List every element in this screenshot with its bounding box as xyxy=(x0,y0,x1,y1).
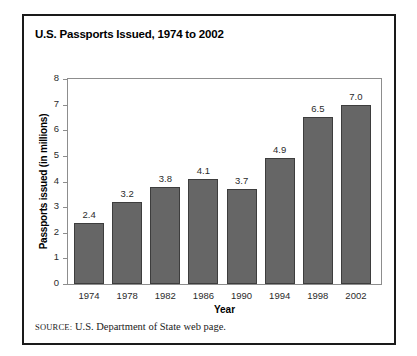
bar-rect xyxy=(227,189,257,284)
source-note: Source: U.S. Department of State web pag… xyxy=(35,321,226,332)
x-axis-tick-label: 1986 xyxy=(183,290,223,301)
x-axis-tick-label: 1974 xyxy=(69,290,109,301)
y-axis-tick-label: 8 xyxy=(54,72,59,83)
bar-rect xyxy=(341,105,371,284)
bar-value-label: 3.8 xyxy=(150,173,180,184)
bar-rect xyxy=(74,223,104,285)
y-axis-tick-label: 7 xyxy=(54,98,59,109)
x-axis-tick-label: 1990 xyxy=(222,290,262,301)
bar[interactable]: 4.91994 xyxy=(265,79,295,284)
bar[interactable]: 3.21978 xyxy=(112,79,142,284)
bar-rect xyxy=(303,117,333,284)
bar[interactable]: 3.81982 xyxy=(150,79,180,284)
bar-value-label: 4.9 xyxy=(265,144,295,155)
figure-frame: U.S. Passports Issued, 1974 to 2002 Pass… xyxy=(22,14,396,345)
chart-title: U.S. Passports Issued, 1974 to 2002 xyxy=(35,28,224,40)
bar-value-label: 4.1 xyxy=(188,165,218,176)
x-axis-tick-label: 1998 xyxy=(298,290,338,301)
y-axis-tick-label: 4 xyxy=(54,175,59,186)
x-axis-tick-label: 1982 xyxy=(145,290,185,301)
bar[interactable]: 2.41974 xyxy=(74,79,104,284)
bar-value-label: 3.2 xyxy=(112,188,142,199)
bar[interactable]: 4.11986 xyxy=(188,79,218,284)
bar[interactable]: 3.71990 xyxy=(227,79,257,284)
bar[interactable]: 7.02002 xyxy=(341,79,371,284)
bar-rect xyxy=(265,158,295,284)
y-axis-label: Passports issued (in millions) xyxy=(37,78,51,285)
bar-value-label: 2.4 xyxy=(74,209,104,220)
plot-area: 012345678 2.419743.219783.819824.119863.… xyxy=(67,78,382,285)
bar-series: 2.419743.219783.819824.119863.719904.919… xyxy=(68,79,381,284)
y-axis-tick-label: 0 xyxy=(54,277,59,288)
y-axis-tick-label: 1 xyxy=(54,251,59,262)
y-axis-tick-label: 6 xyxy=(54,123,59,134)
source-note-text: U.S. Department of State web page. xyxy=(75,321,226,332)
bar-value-label: 6.5 xyxy=(303,103,333,114)
x-axis-tick-label: 1994 xyxy=(260,290,300,301)
y-axis-tick-label: 2 xyxy=(54,226,59,237)
y-axis-tick-mark xyxy=(63,284,68,285)
bar-value-label: 7.0 xyxy=(341,91,371,102)
bar[interactable]: 6.51998 xyxy=(303,79,333,284)
source-note-label: Source: xyxy=(35,322,72,332)
x-axis-tick-label: 2002 xyxy=(336,290,376,301)
x-axis-tick-label: 1978 xyxy=(107,290,147,301)
y-axis-tick-label: 3 xyxy=(54,200,59,211)
bar-value-label: 3.7 xyxy=(227,175,257,186)
y-axis-tick-label: 5 xyxy=(54,149,59,160)
x-axis-label: Year xyxy=(67,304,382,315)
bar-rect xyxy=(150,187,180,284)
bar-rect xyxy=(112,202,142,284)
bar-rect xyxy=(188,179,218,284)
